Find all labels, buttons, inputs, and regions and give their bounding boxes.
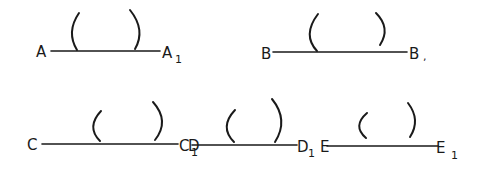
right-arc [153,102,162,140]
left-arc [310,14,318,51]
end-point-label: A [162,44,173,62]
segment-aa1: A A 1 [36,10,182,66]
end-point-subscript: 1 [308,147,315,160]
segments-diagram: A A 1 B B , C C 1 D D 1 E E 1 [0,0,479,171]
end-point-label: D [297,138,309,156]
right-arc [272,99,281,142]
end-point-subscript: , [423,50,427,63]
end-point-label: B [409,45,419,63]
segment-cc1: C C 1 [27,102,198,159]
start-point-label: C [27,136,37,154]
start-point-label: D [188,137,200,155]
end-point-subscript: 1 [451,149,458,162]
end-point-label: E [436,139,445,157]
left-arc [72,13,79,50]
segment-bb1: B B , [261,13,427,63]
start-point-label: E [320,138,329,156]
segment-dd1: D D 1 [188,99,315,160]
right-arc [376,13,385,45]
left-arc [359,113,367,138]
start-point-label: B [261,45,271,63]
end-point-subscript: 1 [175,53,182,66]
right-arc [408,103,415,137]
segment-ee1: E E 1 [320,103,458,162]
left-arc [93,111,101,141]
left-arc [227,110,235,142]
right-arc [130,10,139,49]
start-point-label: A [36,43,47,61]
